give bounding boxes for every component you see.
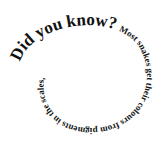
spiral-text: Did you know? Most snakes get their colo… (6, 10, 155, 136)
spiral-body: Most snakes get their colours from pigme… (35, 24, 155, 137)
spiral-text-graphic: Did you know? Most snakes get their colo… (0, 0, 166, 143)
spiral-heading: Did you know? (6, 10, 119, 63)
